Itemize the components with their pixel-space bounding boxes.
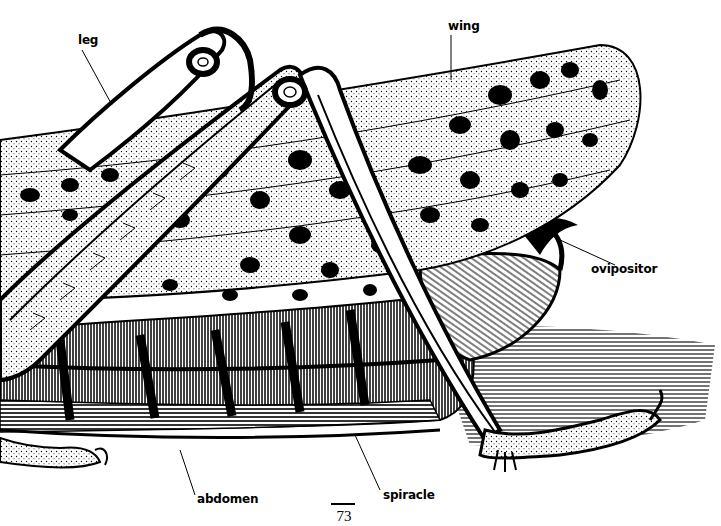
label-leg: leg	[78, 33, 98, 47]
leg-leader-line	[82, 50, 112, 105]
label-spiracle: spiracle	[383, 488, 435, 502]
label-abdomen: abdomen	[197, 492, 258, 506]
label-ovipositor: ovipositor	[591, 262, 657, 276]
label-wing: wing	[448, 19, 480, 33]
page-number: 73	[333, 508, 355, 525]
abdomen-leader-line	[180, 450, 195, 495]
page-number-rule	[331, 503, 355, 505]
spiracle-leader-line	[355, 435, 380, 490]
grasshopper-diagram: leg wing ovipositor abdomen spiracle 73	[0, 0, 721, 526]
front-feet	[0, 438, 107, 467]
